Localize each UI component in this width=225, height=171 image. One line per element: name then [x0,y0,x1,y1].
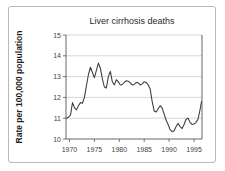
x-tick-label: 1980 [112,146,128,153]
x-tick-label: 1975 [87,146,103,153]
x-tick-label: 1985 [136,146,152,153]
x-tick-label: 1990 [161,146,177,153]
y-tick-label: 12 [53,94,61,101]
y-tick-label: 10 [53,136,61,143]
gridlines [66,35,202,118]
y-axis-ticks: 101112131415 [53,32,66,143]
chart-title: Liver cirrhosis deaths [89,16,175,26]
y-tick-label: 11 [54,115,61,122]
y-tick-label: 14 [53,52,61,59]
y-tick-label: 13 [53,73,61,80]
x-tick-label: 1995 [186,146,202,153]
chart-figure: Liver cirrhosis deaths Rate per 100,000 … [0,0,225,171]
x-tick-label: 1970 [62,146,78,153]
line-chart: Liver cirrhosis deaths Rate per 100,000 … [0,0,225,171]
x-axis-ticks: 197019751980198519901995 [62,139,202,153]
y-axis-title: Rate per 100,000 population [14,31,24,144]
y-tick-label: 15 [53,32,61,39]
